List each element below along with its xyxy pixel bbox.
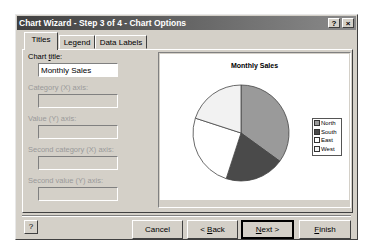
chart-wizard-dialog: Chart Wizard - Step 3 of 4 - Chart Optio… (15, 14, 358, 240)
tab-legend[interactable]: Legend (59, 35, 95, 49)
legend-item-east: East (313, 136, 341, 145)
legend-item-west: West (313, 145, 341, 154)
value-y-label: Value (Y) axis: (28, 114, 76, 123)
tab-titles[interactable]: Titles (24, 32, 58, 50)
chart-legend: North South East West (312, 118, 342, 156)
window-title: Chart Wizard - Step 3 of 4 - Chart Optio… (19, 18, 186, 28)
title-bar: Chart Wizard - Step 3 of 4 - Chart Optio… (17, 16, 356, 30)
value-y-input[interactable] (38, 125, 118, 139)
next-button[interactable]: Next > (241, 220, 294, 239)
category-x-input[interactable] (38, 94, 118, 108)
help-icon[interactable]: ? (328, 18, 340, 28)
tab-data-labels[interactable]: Data Labels (95, 35, 147, 49)
category-x-label: Category (X) axis: (28, 83, 88, 92)
cancel-button[interactable]: Cancel (132, 220, 183, 239)
pie-chart (191, 83, 291, 183)
chart-title-text: Monthly Sales (160, 62, 349, 69)
divider (22, 215, 351, 217)
second-value-y-label: Second value (Y) axis: (28, 176, 103, 185)
second-category-x-label: Second category (X) axis: (28, 145, 114, 154)
titles-panel: Chart title: Category (X) axis: Value (Y… (22, 49, 353, 213)
chart-title-input[interactable] (38, 63, 118, 77)
chart-title-label: Chart title: (28, 52, 62, 61)
second-value-y-input[interactable] (38, 187, 118, 201)
chart-preview: Monthly Sales North South East West (158, 52, 351, 208)
second-category-x-input[interactable] (38, 156, 118, 170)
finish-button[interactable]: Finish (299, 220, 351, 239)
back-button[interactable]: < Back (187, 220, 238, 239)
office-assistant-help-button[interactable]: ? (24, 220, 38, 234)
legend-item-north: North (313, 119, 341, 128)
close-icon[interactable]: × (342, 18, 354, 28)
legend-item-south: South (313, 128, 341, 137)
